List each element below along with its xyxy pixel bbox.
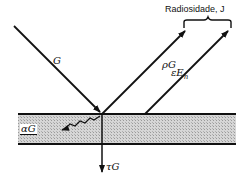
absorbed-label: αG	[20, 124, 37, 135]
radiosity-brace	[184, 17, 231, 28]
emitted-label: εEn	[171, 68, 188, 81]
emitted-label-sub: n	[184, 73, 189, 81]
emitted-label-main: εE	[171, 67, 184, 78]
transmitted-label: τG	[106, 162, 120, 172]
incident-label: G	[53, 56, 61, 66]
radiosity-label: Radiosidade, J	[165, 5, 225, 14]
diagram-graphics	[0, 0, 246, 179]
incident-ray	[14, 26, 100, 112]
radiation-diagram: G ρG εEn αG τG Radiosidade, J	[0, 0, 246, 179]
medium-slab	[18, 114, 236, 144]
